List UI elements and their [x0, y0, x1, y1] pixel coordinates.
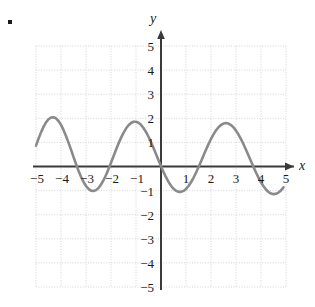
x-tick-label-neg5: −5 [26, 172, 48, 185]
y-tick-label-neg3: −3 [132, 233, 154, 246]
y-tick-label-neg4: −4 [132, 257, 154, 270]
y-axis-label: y [150, 12, 156, 26]
x-tick-label-5: 5 [277, 172, 295, 185]
x-tick-label-neg4: −4 [51, 172, 73, 185]
y-tick-label-neg1: −1 [132, 185, 154, 198]
x-tick-label-1: 1 [177, 172, 195, 185]
graph-figure: x y −5 −4 −3 −2 −1 1 2 3 4 5 5 4 3 2 1 −… [0, 0, 315, 307]
x-tick-label-3: 3 [227, 172, 245, 185]
x-tick-label-neg3: −3 [76, 172, 98, 185]
y-tick-label-1: 1 [138, 136, 154, 149]
coordinate-plane [0, 0, 315, 307]
y-tick-label-2: 2 [138, 112, 154, 125]
y-tick-label-4: 4 [138, 64, 154, 77]
cosine-curve [36, 117, 284, 194]
x-tick-label-4: 4 [252, 172, 270, 185]
y-tick-label-neg2: −2 [132, 209, 154, 222]
y-tick-label-3: 3 [138, 88, 154, 101]
y-tick-label-neg5: −5 [132, 281, 154, 294]
x-tick-label-2: 2 [202, 172, 220, 185]
x-axis-label: x [299, 159, 305, 173]
x-tick-label-neg2: −2 [101, 172, 123, 185]
y-tick-label-5: 5 [138, 40, 154, 53]
